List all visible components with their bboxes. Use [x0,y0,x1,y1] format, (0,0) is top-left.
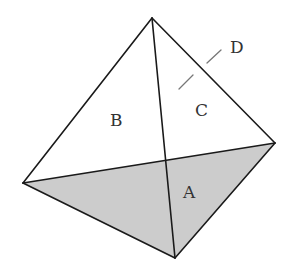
label-d: D [230,37,244,57]
face-a-shaded [23,143,275,258]
diagram-svg: B C A D [0,0,290,271]
pointer-d-lower [179,75,193,89]
label-b: B [110,110,123,130]
label-a: A [182,182,196,202]
edge-top-left [23,18,152,183]
edge-top-right [152,18,275,143]
tetrahedron-diagram: B C A D [0,0,290,271]
label-c: C [195,100,208,120]
pointer-d-upper [207,50,221,63]
